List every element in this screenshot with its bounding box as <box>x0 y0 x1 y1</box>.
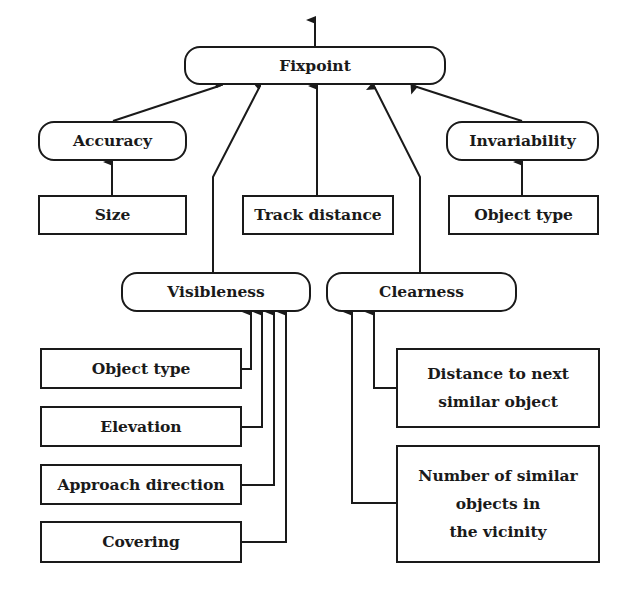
size-label: Size <box>95 201 131 229</box>
invariability-label: Invariability <box>469 127 575 155</box>
fixpoint-label: Fixpoint <box>279 52 351 80</box>
distance-to-next-node: Distance to next similar object <box>396 348 600 428</box>
invariability-object-type-label: Object type <box>474 201 573 229</box>
visibleness-object-type-label: Object type <box>92 355 191 383</box>
covering-label: Covering <box>102 528 180 556</box>
accuracy-label: Accuracy <box>73 127 152 155</box>
size-node: Size <box>38 195 187 235</box>
number-of-similar-node: Number of similar objects in the vicinit… <box>396 445 600 563</box>
distance-to-next-label: Distance to next similar object <box>427 360 569 416</box>
approach-direction-label: Approach direction <box>57 471 224 499</box>
visibleness-node: Visibleness <box>121 272 311 312</box>
elevation-node: Elevation <box>40 406 242 447</box>
invariability-object-type-node: Object type <box>448 195 599 235</box>
accuracy-node: Accuracy <box>38 121 187 161</box>
covering-node: Covering <box>40 521 242 563</box>
visibleness-object-type-node: Object type <box>40 348 242 389</box>
clearness-label: Clearness <box>379 278 464 306</box>
invariability-node: Invariability <box>446 121 599 161</box>
number-of-similar-label: Number of similar objects in the vicinit… <box>418 462 578 546</box>
clearness-node: Clearness <box>326 272 517 312</box>
track-distance-node: Track distance <box>242 195 394 235</box>
visibleness-label: Visibleness <box>167 278 264 306</box>
fixpoint-node: Fixpoint <box>184 46 446 85</box>
approach-direction-node: Approach direction <box>40 464 242 505</box>
track-distance-label: Track distance <box>254 201 381 229</box>
elevation-label: Elevation <box>100 413 181 441</box>
